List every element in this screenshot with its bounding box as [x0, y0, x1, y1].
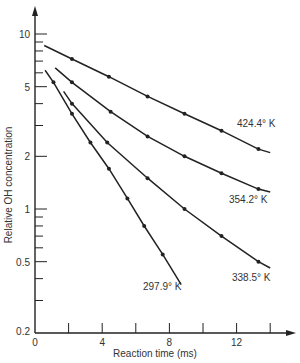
- data-point-marker: [256, 260, 260, 264]
- y-axis-title: Relative OH concentration: [3, 127, 14, 244]
- data-point-marker: [109, 110, 113, 114]
- data-point-marker: [219, 171, 223, 175]
- data-point-marker: [107, 75, 111, 79]
- data-point-marker: [146, 134, 150, 138]
- chart: 105210.50.204812 424.4° K354.2° K338.5° …: [0, 0, 300, 363]
- data-point-marker: [256, 147, 260, 151]
- x-tick-label: 0: [32, 337, 38, 348]
- data-point-marker: [219, 234, 223, 238]
- data-point-marker: [183, 154, 187, 158]
- data-point-marker: [107, 167, 111, 171]
- x-axis-arrow-icon: [286, 330, 296, 336]
- series-lines: [44, 46, 270, 285]
- series-label: 338.5° K: [232, 272, 271, 283]
- data-point-marker: [70, 102, 74, 106]
- data-point-marker: [142, 224, 146, 228]
- data-point-marker: [146, 94, 150, 98]
- y-axis-arrow-icon: [32, 6, 38, 16]
- data-point-marker: [70, 80, 74, 84]
- x-tick-label: 12: [231, 337, 243, 348]
- series-line: [55, 68, 270, 192]
- y-tick-label: 0.5: [16, 257, 30, 268]
- data-point-marker: [51, 80, 55, 84]
- series-label: 354.2° K: [229, 194, 268, 205]
- series-label: 424.4° K: [237, 118, 276, 129]
- y-tick-label: 0.2: [16, 326, 30, 337]
- data-point-marker: [161, 252, 165, 256]
- x-axis-title: Reaction time (ms): [113, 348, 197, 359]
- data-point-marker: [105, 140, 109, 144]
- x-tick-label: 4: [99, 337, 105, 348]
- y-tick-label: 2: [24, 151, 30, 162]
- data-point-marker: [146, 176, 150, 180]
- data-point-marker: [219, 129, 223, 133]
- data-point-marker: [88, 140, 92, 144]
- data-point-marker: [70, 112, 74, 116]
- y-tick-label: 5: [24, 82, 30, 93]
- axes: 105210.50.204812: [16, 6, 296, 348]
- data-point-marker: [125, 196, 129, 200]
- data-point-marker: [70, 57, 74, 61]
- y-tick-label: 1: [24, 204, 30, 215]
- x-tick-label: 8: [167, 337, 173, 348]
- data-point-marker: [256, 187, 260, 191]
- y-tick-label: 10: [19, 29, 31, 40]
- series-line: [44, 46, 270, 153]
- series-label: 297.9° K: [143, 281, 182, 292]
- data-point-marker: [183, 112, 187, 116]
- data-point-marker: [183, 207, 187, 211]
